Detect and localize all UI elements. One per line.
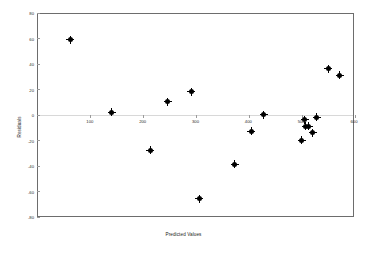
data-point	[109, 110, 114, 115]
data-point	[148, 148, 153, 153]
y-tick-label: 20	[29, 87, 34, 92]
y-tick-label: 40	[29, 62, 34, 67]
y-tick-label: 60	[29, 36, 34, 41]
data-point	[261, 112, 266, 117]
x-tick	[90, 115, 91, 118]
y-tick	[37, 13, 40, 14]
y-tick-label: 80	[29, 11, 34, 16]
data-point	[189, 89, 194, 94]
y-tick	[37, 191, 40, 192]
data-point	[165, 99, 170, 104]
y-tick-label: -20	[28, 138, 34, 143]
y-tick-label: -80	[28, 215, 34, 220]
data-point	[310, 130, 315, 135]
x-tick-label: 200	[139, 119, 146, 124]
x-axis-title: Predicted Values	[0, 232, 367, 238]
data-point	[249, 129, 254, 134]
y-tick	[37, 115, 40, 116]
data-point	[306, 124, 311, 129]
residual-scatter-chart: 100200300400500600 806040200-20-40-60-80…	[0, 0, 367, 253]
x-tick	[249, 115, 250, 118]
y-tick-label: 0	[32, 113, 34, 118]
y-tick	[37, 140, 40, 141]
data-point	[68, 37, 73, 42]
data-point	[197, 196, 202, 201]
data-point	[299, 138, 304, 143]
x-tick-label: 300	[192, 119, 199, 124]
y-tick-label: -40	[28, 164, 34, 169]
x-tick-label: 600	[351, 119, 358, 124]
data-point	[314, 115, 319, 120]
x-tick	[355, 115, 356, 118]
y-axis-title: Residuals	[17, 116, 23, 137]
y-tick-label: -60	[28, 189, 34, 194]
x-tick-label: 400	[245, 119, 252, 124]
x-tick-label: 500	[298, 119, 305, 124]
x-tick	[196, 115, 197, 118]
y-tick	[37, 217, 40, 218]
data-point	[232, 162, 237, 167]
data-point	[326, 66, 331, 71]
y-tick	[37, 89, 40, 90]
plot-area	[37, 13, 354, 217]
y-tick	[37, 38, 40, 39]
y-tick	[37, 166, 40, 167]
y-tick	[37, 64, 40, 65]
data-point	[337, 73, 342, 78]
x-tick	[143, 115, 144, 118]
x-tick-label: 100	[86, 119, 93, 124]
